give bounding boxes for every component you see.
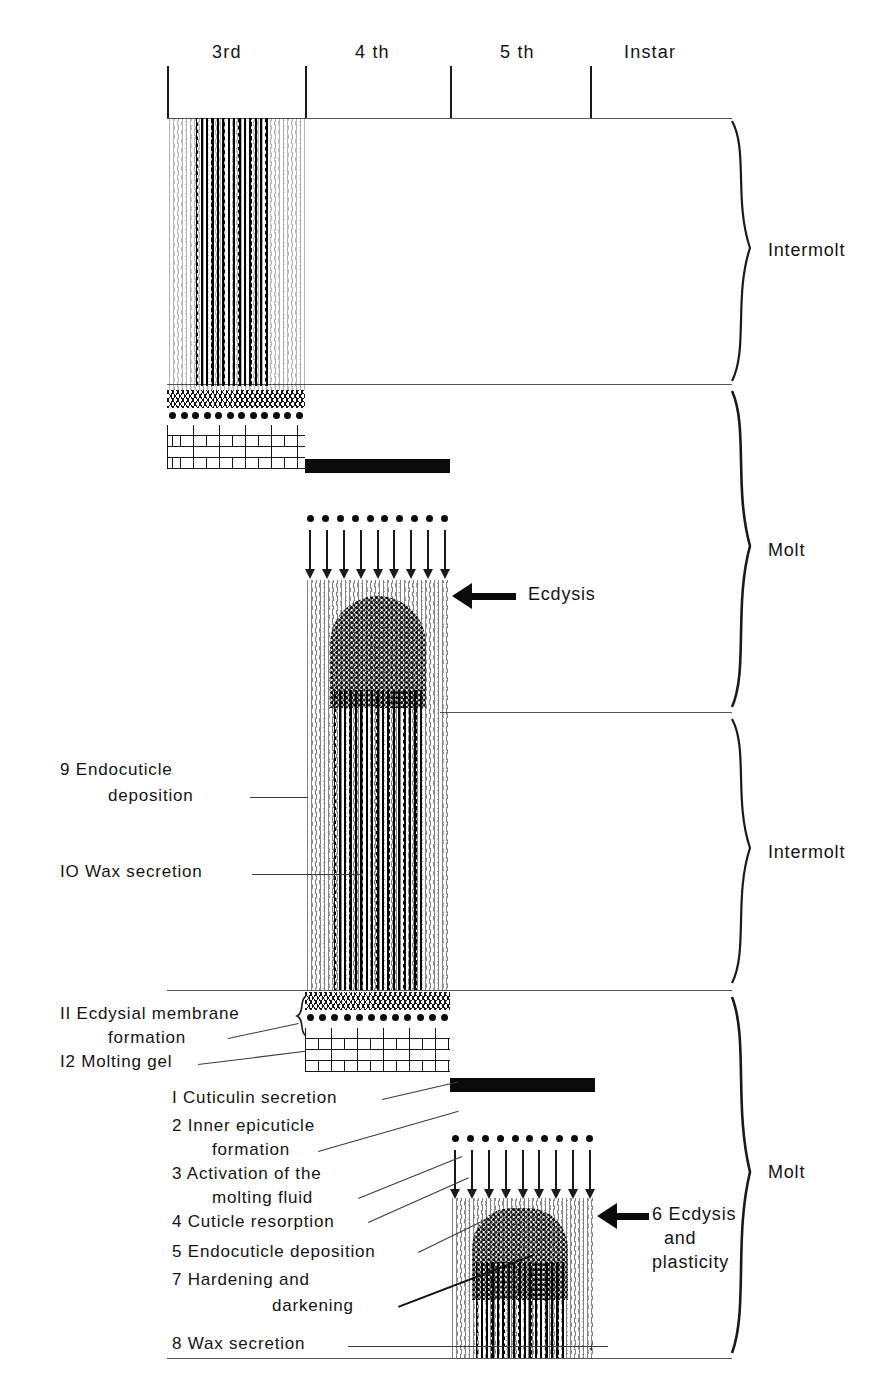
axis-tick-instar xyxy=(590,66,592,118)
ecdysial-membrane-4th xyxy=(305,992,450,1010)
axis-label-4th: 4 th xyxy=(355,42,390,63)
label-9-line1: 9 Endocuticle xyxy=(60,760,172,780)
label-2-line2: formation xyxy=(212,1140,290,1160)
ecdysial-membrane-3rd xyxy=(167,390,305,408)
leader-9 xyxy=(250,797,308,798)
label-3-line1: 3 Activation of the xyxy=(172,1164,321,1184)
label-7-line2: darkening xyxy=(272,1296,354,1316)
ecdysis-arrow-lower xyxy=(597,1203,649,1229)
label-4-line1: 4 Cuticle resorption xyxy=(172,1212,334,1232)
dot-row-5th xyxy=(452,1133,593,1143)
cuticulin-secretion-bar-5th xyxy=(450,1078,595,1092)
label-7-line1: 7 Hardening and xyxy=(172,1270,310,1290)
label-3-line2: molting fluid xyxy=(212,1188,313,1208)
phase-label-2: Molt xyxy=(768,540,805,561)
dot-row-4th xyxy=(307,513,448,523)
axis-label-5th: 5 th xyxy=(500,42,535,63)
label-9-line2: deposition xyxy=(108,786,194,806)
phase-divider-2 xyxy=(440,712,732,713)
ecdysis-label-lower-2: and xyxy=(664,1228,696,1249)
axis-tick-3rd xyxy=(167,66,169,118)
phase-label-1: Intermolt xyxy=(768,240,845,261)
leader-2 xyxy=(318,1111,459,1152)
cuticulin-dot-row-4th xyxy=(307,1011,448,1023)
cuticle-5th-endocuticle-core xyxy=(476,1262,564,1358)
figure-bottom-rule xyxy=(167,1358,732,1359)
molting-gel-4th xyxy=(305,1028,450,1072)
phase-label-4: Molt xyxy=(768,1162,805,1183)
label-1-line1: I Cuticulin secretion xyxy=(172,1088,337,1108)
brace-phase-3 xyxy=(728,718,758,984)
ecdysis-arrow-upper xyxy=(452,583,516,609)
label-11-line2: formation xyxy=(108,1028,186,1048)
leader-3 xyxy=(358,1156,462,1199)
brace-ecdysial-membrane xyxy=(293,995,309,1037)
brace-phase-4 xyxy=(728,996,758,1354)
molting-gel-3rd xyxy=(167,425,305,469)
label-8-line1: 8 Wax secretion xyxy=(172,1334,305,1354)
molting-fluid-arrows-5th xyxy=(454,1150,591,1190)
ecdysis-label-upper: Ecdysis xyxy=(528,584,596,605)
phase-label-3: Intermolt xyxy=(768,842,845,863)
label-12-line1: I2 Molting gel xyxy=(60,1052,172,1072)
leader-8 xyxy=(348,1346,608,1347)
label-10-line1: IO Wax secretion xyxy=(60,862,203,882)
phase-divider-3 xyxy=(167,990,732,991)
leader-12 xyxy=(198,1051,305,1065)
leader-1 xyxy=(382,1081,458,1100)
ecdysis-label-lower-1: 6 Ecdysis xyxy=(652,1204,736,1225)
cuticle-3rd-core xyxy=(196,118,268,386)
ecdysis-label-lower-3: plasticity xyxy=(652,1252,729,1273)
wax-layer-tail-glyph: ↓ xyxy=(587,1336,597,1354)
cuticle-4th-endocuticle-core xyxy=(334,690,422,990)
brace-phase-2 xyxy=(728,390,758,708)
label-2-line1: 2 Inner epicuticle xyxy=(172,1116,315,1136)
axis-tick-5th xyxy=(450,66,452,118)
cuticulin-dot-row-3rd xyxy=(169,409,303,421)
cuticulin-secretion-bar-4th xyxy=(305,459,450,473)
axis-label-3rd: 3rd xyxy=(212,42,242,63)
figure-canvas: 3rd 4 th 5 th Instar xyxy=(0,0,892,1400)
label-11-line1: II Ecdysial membrane xyxy=(60,1004,239,1024)
label-5-line1: 5 Endocuticle deposition xyxy=(172,1242,376,1262)
axis-label-instar: Instar xyxy=(624,42,676,63)
axis-tick-4th xyxy=(305,66,307,118)
leader-10 xyxy=(252,874,362,875)
leader-11 xyxy=(228,1023,299,1039)
molting-fluid-arrows-4th xyxy=(309,530,446,570)
brace-phase-1 xyxy=(728,120,758,382)
